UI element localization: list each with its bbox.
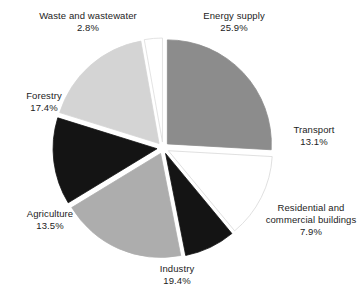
slice-label-name: Forestry: [4, 90, 84, 102]
slice-label-name: Energy supply: [178, 10, 290, 22]
slice-label-value: 19.4%: [131, 275, 223, 287]
slice-label-waste-and-wastewater: Waste and wastewater 2.8%: [32, 10, 144, 34]
slice-label-value: 25.9%: [178, 22, 290, 34]
slice-label-forestry: Forestry 17.4%: [4, 90, 84, 114]
slice-label-residential-and-commercial-buildings: Residential and commercial buildings 7.9…: [261, 202, 361, 239]
slice-label-name: Waste and wastewater: [32, 10, 144, 22]
pie-slice: [167, 40, 271, 150]
slice-label-industry: Industry 19.4%: [131, 263, 223, 287]
slice-label-transport: Transport 13.1%: [268, 124, 360, 148]
pie-chart-svg: [0, 0, 361, 302]
slice-label-energy-supply: Energy supply 25.9%: [178, 10, 290, 34]
slice-label-value: 17.4%: [4, 102, 84, 114]
slice-label-agriculture: Agriculture 13.5%: [4, 208, 96, 232]
pie-chart: Energy supply 25.9% Transport 13.1% Resi…: [0, 0, 361, 302]
slice-label-name: Residential and commercial buildings: [261, 202, 361, 226]
slice-label-value: 7.9%: [261, 226, 361, 238]
slice-label-value: 13.1%: [268, 136, 360, 148]
slice-label-name: Industry: [131, 263, 223, 275]
slice-label-name: Agriculture: [4, 208, 96, 220]
slice-label-value: 2.8%: [32, 22, 144, 34]
slice-label-name: Transport: [268, 124, 360, 136]
slice-label-value: 13.5%: [4, 220, 96, 232]
